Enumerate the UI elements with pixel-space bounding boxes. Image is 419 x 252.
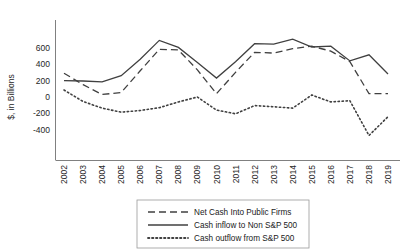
line-chart: 6004002000-200-400 $, in Billions 200220… [0, 0, 419, 252]
y-tick-0: 600 [36, 43, 50, 53]
x-tick-2006: 2006 [135, 165, 145, 184]
x-tick-2002: 2002 [59, 165, 69, 184]
x-tick-2018: 2018 [364, 165, 374, 184]
y-tick-4: -200 [33, 108, 50, 118]
x-tick-2019: 2019 [383, 165, 393, 184]
x-tick-2017: 2017 [345, 165, 355, 184]
x-tick-2009: 2009 [192, 165, 202, 184]
data-series-group [64, 39, 388, 135]
x-tick-2008: 2008 [173, 165, 183, 184]
x-tick-2016: 2016 [326, 165, 336, 184]
x-tick-2013: 2013 [269, 165, 279, 184]
series-line-1 [64, 39, 388, 82]
y-axis-tick-labels: 6004002000-200-400 [33, 43, 50, 135]
x-tick-2011: 2011 [231, 165, 241, 184]
x-tick-2015: 2015 [307, 165, 317, 184]
x-tick-2003: 2003 [78, 165, 88, 184]
x-tick-2007: 2007 [154, 165, 164, 184]
y-tick-2: 200 [36, 76, 50, 86]
x-tick-2010: 2010 [212, 165, 222, 184]
y-axis-title: $, in Billions [6, 74, 16, 119]
series-line-2 [64, 90, 388, 136]
legend-label-0: Net Cash Into Public Firms [194, 208, 291, 217]
legend-label-2: Cash outflow from S&P 500 [194, 234, 295, 243]
legend-label-1: Cash inflow to Non S&P 500 [194, 221, 298, 230]
y-tick-3: 0 [45, 92, 50, 102]
x-axis-tick-labels: 2002200320042005200620072008200920102011… [59, 165, 393, 184]
x-tick-2004: 2004 [97, 165, 107, 184]
y-tick-5: -400 [33, 125, 50, 135]
x-tick-2005: 2005 [116, 165, 126, 184]
chart-legend: Net Cash Into Public FirmsCash inflow to… [137, 200, 309, 248]
chart-container: 6004002000-200-400 $, in Billions 200220… [0, 0, 419, 252]
x-tick-2014: 2014 [288, 165, 298, 184]
x-tick-2012: 2012 [250, 165, 260, 184]
y-tick-1: 400 [36, 59, 50, 69]
